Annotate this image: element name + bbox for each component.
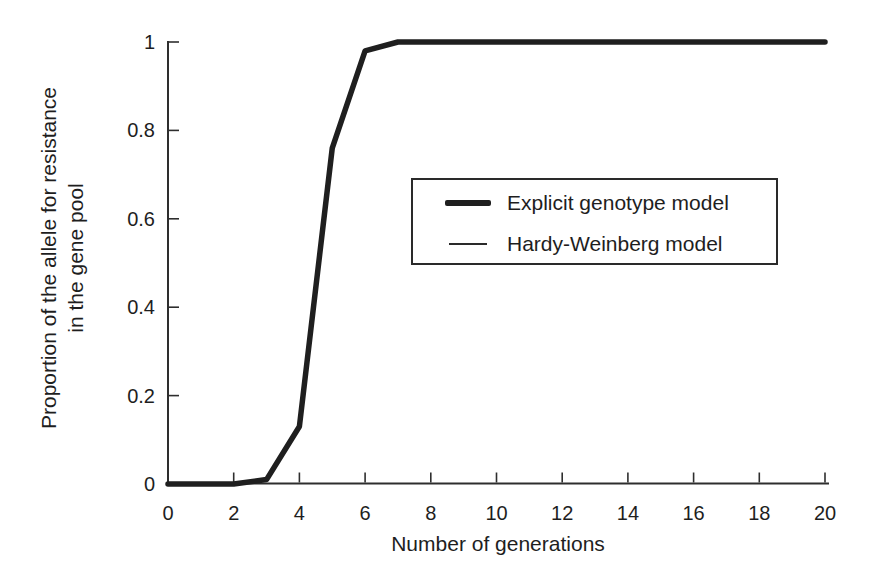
legend: Explicit genotype model Hardy-Weinberg m…: [411, 178, 778, 265]
thin-line-swatch-icon: [449, 243, 487, 245]
x-tick-label: 6: [360, 502, 371, 524]
legend-entry-hardy-weinberg: Hardy-Weinberg model: [413, 229, 776, 259]
y-tick-label: 0.2: [127, 385, 155, 407]
x-tick-label: 16: [682, 502, 704, 524]
x-tick-label: 0: [162, 502, 173, 524]
y-axis-title-line1: Proportion of the allele for resistance: [35, 33, 62, 483]
x-axis-title: Number of generations: [168, 532, 828, 556]
legend-label: Explicit genotype model: [507, 191, 729, 215]
y-axis-title-line2: in the gene pool: [62, 33, 89, 483]
plot-area: 0246810121416182000.20.40.60.81: [0, 0, 874, 587]
x-tick-label: 12: [551, 502, 573, 524]
x-tick-label: 18: [748, 502, 770, 524]
legend-entry-explicit-genotype: Explicit genotype model: [413, 188, 776, 218]
x-tick-label: 4: [294, 502, 305, 524]
y-tick-label: 0.4: [127, 296, 155, 318]
line-chart-figure: 0246810121416182000.20.40.60.81 Proporti…: [0, 0, 874, 587]
legend-swatch-wrap: [437, 243, 499, 245]
x-tick-label: 8: [425, 502, 436, 524]
y-tick-label: 0: [144, 473, 155, 495]
legend-label: Hardy-Weinberg model: [507, 232, 723, 256]
x-tick-label: 10: [485, 502, 507, 524]
y-axis-title: Proportion of the allele for resistance …: [35, 33, 89, 483]
y-tick-label: 1: [144, 31, 155, 53]
x-tick-label: 2: [228, 502, 239, 524]
x-tick-label: 20: [814, 502, 836, 524]
legend-swatch-wrap: [437, 200, 499, 206]
thick-line-swatch-icon: [445, 200, 491, 206]
x-tick-label: 14: [617, 502, 639, 524]
y-tick-label: 0.6: [127, 208, 155, 230]
y-tick-label: 0.8: [127, 119, 155, 141]
